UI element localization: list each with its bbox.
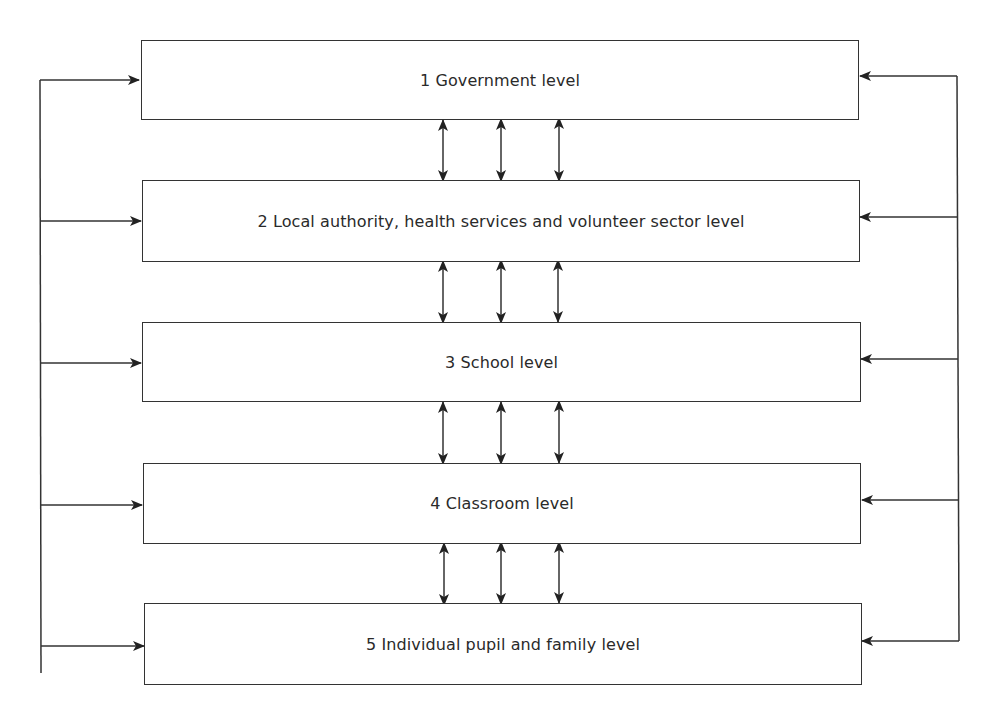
level-label: 5 Individual pupil and family level <box>366 635 640 654</box>
right-feedback-bus <box>860 76 959 641</box>
left-feedback-bus <box>40 80 144 673</box>
level-label: 1 Government level <box>420 71 580 90</box>
level-box-classroom: 4 Classroom level <box>143 463 861 544</box>
level-box-local-authority: 2 Local authority, health services and v… <box>142 180 860 262</box>
level-box-individual-pupil-family: 5 Individual pupil and family level <box>144 603 862 685</box>
level-label: 4 Classroom level <box>430 494 574 513</box>
level-box-school: 3 School level <box>142 322 861 402</box>
level-label: 2 Local authority, health services and v… <box>257 212 744 231</box>
level-box-government: 1 Government level <box>141 40 859 120</box>
level-label: 3 School level <box>445 353 558 372</box>
